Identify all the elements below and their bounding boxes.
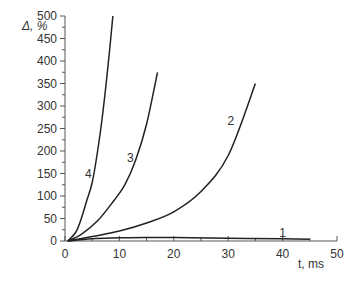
x-tick-label: 10 <box>113 247 127 261</box>
x-tick-label: 50 <box>330 247 344 261</box>
y-tick-label: 50 <box>44 212 58 226</box>
x-tick-label: 20 <box>167 247 181 261</box>
x-tick-label: 40 <box>276 247 290 261</box>
y-axis-label: Δ, % <box>21 19 48 33</box>
curve-label-2: 2 <box>228 114 235 128</box>
curve-3 <box>68 72 158 241</box>
curve-4 <box>68 16 113 241</box>
curves <box>68 16 310 241</box>
x-tick-label: 0 <box>62 247 69 261</box>
x-tick-label: 30 <box>222 247 236 261</box>
y-tick-label: 400 <box>37 54 57 68</box>
y-tick-label: 200 <box>37 144 57 158</box>
y-tick-label: 350 <box>37 77 57 91</box>
y-tick-label: 100 <box>37 189 57 203</box>
curve-1 <box>68 237 310 241</box>
y-tick-label: 150 <box>37 167 57 181</box>
y-tick-label: 0 <box>50 234 57 248</box>
x-axis-label: t, ms <box>298 257 324 271</box>
curve-label-1: 1 <box>279 226 286 240</box>
y-tick-label: 450 <box>37 32 57 46</box>
curve-label-4: 4 <box>85 167 92 181</box>
y-tick-label: 250 <box>37 122 57 136</box>
curve-label-3: 3 <box>127 151 134 165</box>
curve-labels: 1234 <box>85 114 286 240</box>
tick-labels: 0102030405005010015020025030035040045050… <box>37 9 344 261</box>
y-tick-label: 300 <box>37 99 57 113</box>
line-chart: 0102030405005010015020025030035040045050… <box>0 0 357 283</box>
